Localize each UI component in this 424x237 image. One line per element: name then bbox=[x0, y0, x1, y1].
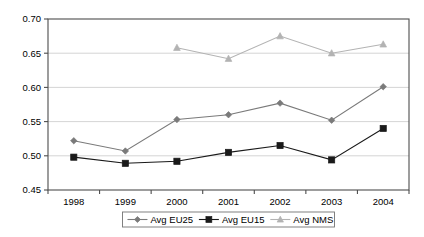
series-avg-nms bbox=[174, 33, 387, 62]
series-line bbox=[74, 87, 383, 151]
data-point-square bbox=[380, 125, 386, 131]
legend-group: Avg EU25Avg EU15Avg NMS bbox=[122, 212, 334, 227]
legend-label: Avg EU25 bbox=[150, 214, 193, 225]
x-axis-tick-label: 1998 bbox=[63, 196, 84, 207]
y-axis-tick-label: 0.70 bbox=[23, 13, 42, 24]
data-point-triangle bbox=[277, 33, 284, 39]
x-axis-tick-label: 2004 bbox=[373, 196, 394, 207]
data-point-diamond bbox=[277, 100, 283, 106]
data-point-square bbox=[277, 142, 283, 148]
chart-canvas: 0.700.650.600.550.500.45 199819992000200… bbox=[0, 0, 424, 237]
line-chart: 0.700.650.600.550.500.45 199819992000200… bbox=[0, 0, 424, 237]
x-axis-tick-label: 1999 bbox=[115, 196, 136, 207]
x-axis-group: 1998199920002001200220032004 bbox=[48, 190, 409, 207]
x-axis-tick-label: 2003 bbox=[321, 196, 342, 207]
x-axis-tick-label: 2002 bbox=[269, 196, 290, 207]
data-point-triangle bbox=[380, 41, 387, 47]
data-point-diamond bbox=[122, 148, 128, 154]
legend-label: Avg EU15 bbox=[222, 214, 265, 225]
data-point-square-legend bbox=[206, 217, 212, 223]
series-line bbox=[74, 128, 383, 163]
data-point-square bbox=[329, 157, 335, 163]
data-point-diamond bbox=[328, 117, 334, 123]
legend-label: Avg NMS bbox=[293, 214, 333, 225]
data-point-diamond bbox=[71, 138, 77, 144]
y-axis-tick-label: 0.65 bbox=[23, 48, 42, 59]
y-axis-tick-label: 0.60 bbox=[23, 82, 42, 93]
y-axis-tick-label: 0.45 bbox=[23, 184, 42, 195]
series-avg-eu15 bbox=[71, 125, 387, 166]
series-avg-eu25 bbox=[71, 84, 387, 155]
data-point-square bbox=[71, 154, 77, 160]
y-axis-tick-label: 0.50 bbox=[23, 150, 42, 161]
y-axis-tick-label: 0.55 bbox=[23, 116, 42, 127]
data-point-diamond bbox=[225, 112, 231, 118]
x-axis-tick-label: 2001 bbox=[218, 196, 239, 207]
series-group bbox=[71, 33, 387, 167]
y-axis-group: 0.700.650.600.550.500.45 bbox=[23, 13, 49, 195]
data-point-square bbox=[122, 160, 128, 166]
data-point-diamond bbox=[380, 84, 386, 90]
x-axis-tick-label: 2000 bbox=[166, 196, 187, 207]
data-point-triangle bbox=[174, 44, 181, 50]
data-point-square bbox=[225, 149, 231, 155]
series-line bbox=[177, 36, 383, 59]
data-point-square bbox=[174, 158, 180, 164]
